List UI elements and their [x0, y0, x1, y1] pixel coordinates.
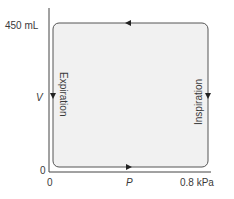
inspiration-label: Inspiration [193, 79, 204, 125]
y-zero-label: 0 [40, 165, 46, 176]
y-max-label: 450 mL [5, 20, 38, 31]
x-axis-label: P [126, 177, 133, 188]
x-zero-label: 0 [47, 177, 53, 188]
loop-area [53, 23, 208, 167]
x-max-label: 0.8 kPa [180, 177, 214, 188]
y-axis-label: V [36, 92, 43, 103]
expiration-label: Expiration [58, 72, 69, 116]
